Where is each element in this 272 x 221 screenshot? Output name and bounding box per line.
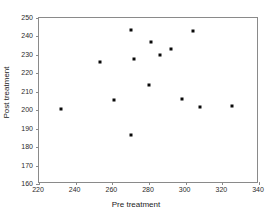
data-point [170,48,173,51]
y-axis-tick-label: 160 [11,180,33,187]
data-point [133,58,136,61]
y-axis-tick [36,92,39,93]
x-axis-tick [76,182,77,185]
y-axis-tick-label: 230 [11,50,33,57]
y-axis-tick-label: 200 [11,106,33,113]
y-axis-tick-label: 210 [11,87,33,94]
x-axis-tick-label: 320 [215,186,227,193]
y-axis-tick [36,129,39,130]
x-axis-tick-label: 300 [179,186,191,193]
x-axis-tick-label: 240 [69,186,81,193]
plot-area [38,17,258,183]
data-point [159,53,162,56]
y-axis-tick [36,55,39,56]
x-axis-title: Pre treatment [0,200,272,209]
y-axis-tick [36,147,39,148]
x-axis-tick [39,182,40,185]
y-axis-tick [36,36,39,37]
x-axis-tick [186,182,187,185]
x-axis-tick [222,182,223,185]
x-axis-tick [112,182,113,185]
y-axis-tick-label: 250 [11,14,33,21]
x-axis-tick [149,182,150,185]
y-axis-tick-label: 180 [11,143,33,150]
y-axis-tick [36,110,39,111]
data-point [149,40,152,43]
data-point [192,30,195,33]
x-axis-tick-label: 340 [252,186,264,193]
y-axis-tick-label: 170 [11,161,33,168]
x-axis-tick-label: 280 [142,186,154,193]
data-point [60,107,63,110]
data-point [129,134,132,137]
y-axis-tick-label: 220 [11,69,33,76]
data-point [129,28,132,31]
y-axis-tick-label: 240 [11,32,33,39]
y-axis-title: Post treatment [2,43,11,143]
y-axis-tick [36,18,39,19]
data-point [181,97,184,100]
x-axis-tick-label: 260 [105,186,117,193]
x-axis-tick-label: 220 [32,186,44,193]
data-point [230,105,233,108]
x-axis-tick [259,182,260,185]
data-point [199,106,202,109]
data-point [148,84,151,87]
y-axis-tick-label: 190 [11,124,33,131]
scatter-plot: Post treatment Pre treatment 16017018019… [0,0,272,221]
data-point [113,99,116,102]
data-point [98,60,101,63]
y-axis-tick [36,73,39,74]
y-axis-tick [36,166,39,167]
